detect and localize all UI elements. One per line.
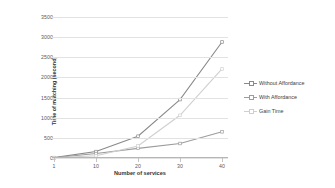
legend-label: With Affordance (259, 94, 297, 100)
data-point-marker (221, 131, 224, 134)
series-line (54, 42, 222, 158)
x-tick (54, 158, 55, 162)
gridline (52, 37, 228, 38)
data-point-marker (179, 142, 182, 145)
y-tick-label: 3000 (29, 34, 53, 40)
chart-legend: Without AffordanceWith AffordanceGain Ti… (244, 76, 334, 118)
legend-item[interactable]: With Affordance (244, 90, 334, 104)
gridline (52, 17, 228, 18)
data-point-marker (221, 41, 224, 44)
data-point-marker (179, 114, 182, 117)
x-tick (96, 158, 97, 162)
x-axis-line (52, 157, 228, 158)
y-tick-label: 0 (29, 155, 53, 161)
gridline (52, 98, 228, 99)
data-point-marker (137, 145, 140, 148)
gridline (52, 77, 228, 78)
legend-line-icon (244, 108, 257, 115)
plot-area (52, 17, 228, 158)
x-tick-label: 1 (53, 163, 56, 169)
x-axis-title: Number of services (52, 170, 228, 176)
y-tick-label: 1500 (29, 95, 53, 101)
data-point-marker (221, 68, 224, 71)
x-tick (138, 158, 139, 162)
y-tick-label: 1000 (29, 115, 53, 121)
x-tick-label: 20 (135, 163, 141, 169)
legend-item[interactable]: Gain Time (244, 104, 334, 118)
legend-label: Without Affordance (259, 80, 304, 86)
x-tick-label: 30 (177, 163, 183, 169)
series-lines (52, 17, 228, 158)
y-tick-label: 2500 (29, 54, 53, 60)
line-chart: Time of matching (second) 05001000150020… (0, 0, 335, 188)
legend-line-icon (244, 80, 257, 87)
y-tick-label: 2000 (29, 74, 53, 80)
x-tick-label: 40 (219, 163, 225, 169)
data-point-marker (179, 98, 182, 101)
x-tick (180, 158, 181, 162)
y-tick-label: 3500 (29, 14, 53, 20)
gridline (52, 118, 228, 119)
x-tick (222, 158, 223, 162)
gridline (52, 158, 228, 159)
legend-item[interactable]: Without Affordance (244, 76, 334, 90)
x-tick-label: 10 (93, 163, 99, 169)
gridline (52, 57, 228, 58)
legend-line-icon (244, 94, 257, 101)
legend-label: Gain Time (259, 108, 284, 114)
gridline (52, 138, 228, 139)
y-tick-label: 500 (29, 135, 53, 141)
